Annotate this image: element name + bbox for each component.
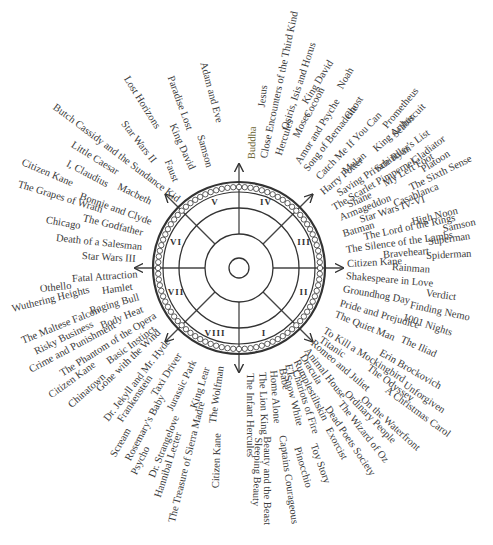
bead (242, 185, 247, 190)
title-label: Buddha (247, 126, 259, 159)
bead (219, 344, 224, 349)
bead (157, 248, 162, 253)
bead (179, 208, 184, 213)
bead (314, 288, 319, 293)
bead (317, 271, 322, 276)
bead (317, 260, 322, 265)
bead (213, 343, 218, 348)
bead (280, 197, 285, 202)
bead (175, 318, 180, 323)
bead (168, 309, 173, 314)
bead (304, 222, 309, 227)
bead (307, 226, 312, 231)
bead (165, 304, 170, 309)
bead (231, 346, 236, 351)
sector-numeral: I (262, 328, 267, 338)
bead (231, 185, 236, 190)
bead (312, 294, 317, 299)
bead (157, 283, 162, 288)
bead (304, 309, 309, 314)
bead (160, 294, 165, 299)
bead (163, 299, 168, 304)
bead (156, 260, 161, 265)
bead (183, 327, 188, 332)
ring (229, 258, 249, 278)
movie-archetype-wheel-diagram: IIIIIIIVVVIVIIVIII Adam and EveParadise … (0, 0, 493, 545)
title-label: The Lion King (257, 372, 270, 435)
bead (168, 222, 173, 227)
bead (285, 200, 290, 205)
bead (259, 188, 264, 193)
bead (193, 197, 198, 202)
bead (312, 237, 317, 242)
bead (163, 232, 168, 237)
bead (307, 304, 312, 309)
bead (310, 232, 315, 237)
bead (315, 248, 320, 253)
bead (254, 344, 259, 349)
bead (159, 242, 164, 247)
sector-numeral: V (211, 197, 219, 207)
bead (254, 186, 259, 191)
bead (156, 271, 161, 276)
bead (298, 212, 303, 217)
bead (175, 212, 180, 217)
bead (314, 242, 319, 247)
sector-numeral: VII (168, 287, 185, 297)
bead (301, 217, 306, 222)
bead (289, 204, 294, 209)
bead (265, 189, 270, 194)
bead (248, 185, 253, 190)
bead (289, 327, 294, 332)
sector-numeral: II (299, 287, 308, 297)
bead (236, 346, 241, 351)
bead (225, 185, 230, 190)
bead (197, 194, 202, 199)
bead (270, 339, 275, 344)
bead (316, 277, 321, 282)
bead (188, 200, 193, 205)
bead (280, 333, 285, 338)
bead (225, 345, 230, 350)
bead (298, 318, 303, 323)
bead (310, 299, 315, 304)
bead (236, 184, 241, 189)
bead (294, 323, 299, 328)
title-label: Beauty and the Beast (262, 436, 273, 525)
bead (265, 341, 270, 346)
sector-numeral: III (297, 237, 311, 247)
bead (159, 288, 164, 293)
sector-numeral: VI (170, 237, 182, 247)
bead (208, 189, 213, 194)
bead (285, 330, 290, 335)
bead (156, 277, 161, 282)
bead (171, 314, 176, 319)
bead (294, 208, 299, 213)
bead (259, 343, 264, 348)
concentric-rings (153, 182, 325, 354)
bead (213, 188, 218, 193)
bead (188, 330, 193, 335)
bead (160, 237, 165, 242)
bead (203, 339, 208, 344)
bead (248, 345, 253, 350)
bead (242, 346, 247, 351)
bead (317, 265, 322, 270)
bead (275, 194, 280, 199)
bead (165, 226, 170, 231)
bead (208, 341, 213, 346)
bead (193, 333, 198, 338)
bead (156, 254, 161, 259)
bead (219, 186, 224, 191)
bead (179, 323, 184, 328)
title-label: Citizen Kane (211, 433, 223, 488)
sector-numeral: IV (260, 197, 272, 207)
bead (183, 204, 188, 209)
bead (275, 336, 280, 341)
ring (205, 234, 273, 302)
bead (171, 217, 176, 222)
sector-numeral: VIII (204, 328, 225, 338)
bead (316, 254, 321, 259)
bead (155, 265, 160, 270)
bead (197, 336, 202, 341)
